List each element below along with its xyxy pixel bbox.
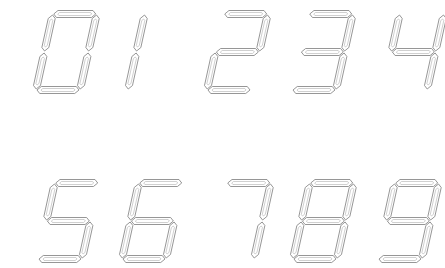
digit-9: [379, 180, 441, 263]
segment-bottom: [379, 256, 421, 263]
segment-top: [310, 11, 352, 18]
segment-bottom: [39, 256, 81, 263]
segment-top: [396, 180, 438, 187]
segment-top: [140, 180, 182, 187]
segment-upper-right: [342, 15, 355, 51]
segment-bottom: [37, 87, 79, 94]
digit-5: [39, 180, 98, 263]
segment-top: [56, 180, 98, 187]
segment-middle: [47, 218, 89, 225]
digit-4: [389, 15, 445, 89]
segment-top: [54, 11, 96, 18]
segment-lower-right: [333, 53, 346, 89]
segment-upper-right: [343, 184, 356, 220]
segment-upper-right: [257, 15, 270, 51]
segment-upper-left: [384, 184, 397, 220]
digit-1: [125, 15, 147, 89]
segment-lower-right: [77, 53, 90, 89]
segment-bottom: [208, 87, 250, 94]
segment-upper-right: [433, 15, 445, 51]
segment-lower-right: [251, 222, 264, 258]
segment-bottom: [294, 256, 336, 263]
segment-middle: [131, 218, 173, 225]
segment-middle: [216, 49, 258, 56]
digit-7: [228, 180, 274, 259]
segment-upper-right: [428, 184, 441, 220]
segment-middle: [387, 218, 429, 225]
segment-top: [225, 11, 267, 18]
segment-lower-right: [79, 222, 92, 258]
digit-3: [293, 11, 355, 94]
segment-middle: [392, 49, 434, 56]
segment-top: [228, 180, 270, 187]
segment-upper-right: [260, 184, 273, 220]
segment-upper-left: [128, 184, 141, 220]
segment-upper-left: [389, 15, 402, 51]
segment-lower-right: [419, 222, 432, 258]
segment-upper-left: [42, 15, 55, 51]
segment-lower-right: [334, 222, 347, 258]
segment-bottom: [123, 256, 165, 263]
segment-lower-left: [33, 53, 46, 89]
digit-0: [33, 11, 99, 94]
segment-upper-left: [44, 184, 57, 220]
segment-lower-left: [204, 53, 217, 89]
digit-2: [204, 11, 270, 94]
segment-top: [311, 180, 353, 187]
segment-upper-right: [86, 15, 99, 51]
digit-6: [119, 180, 181, 263]
segment-bottom: [293, 87, 335, 94]
segment-middle: [301, 49, 343, 56]
segment-lower-right: [125, 53, 138, 89]
segment-middle: [302, 218, 344, 225]
segment-lower-left: [290, 222, 303, 258]
segment-lower-left: [119, 222, 132, 258]
digit-8: [290, 180, 356, 263]
segment-upper-left: [299, 184, 312, 220]
segment-lower-right: [424, 53, 437, 89]
segment-upper-right: [134, 15, 147, 51]
segment-lower-right: [163, 222, 176, 258]
seven-segment-diagram: [0, 0, 445, 268]
